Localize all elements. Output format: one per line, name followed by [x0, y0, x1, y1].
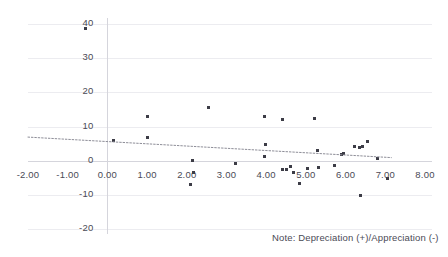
data-point [333, 164, 336, 167]
data-point [84, 27, 87, 30]
data-point [317, 166, 320, 169]
data-point [376, 157, 379, 160]
y-axis-tick-label: 0 [63, 154, 93, 165]
data-point [353, 145, 356, 148]
x-axis-tick-label: 6.00 [324, 169, 368, 180]
x-axis-tick-label: 1.00 [125, 169, 169, 180]
data-point [306, 167, 309, 170]
data-point [192, 171, 195, 174]
data-point [298, 182, 301, 185]
data-point [189, 183, 192, 186]
y-axis-tick-label: 30 [63, 51, 93, 62]
x-axis-tick-label: 8.00 [403, 169, 447, 180]
data-point [112, 139, 115, 142]
x-axis-tick-label: -1.00 [46, 169, 90, 180]
data-point [263, 115, 266, 118]
x-axis-tick-label: 0.00 [85, 169, 129, 180]
data-point [146, 136, 149, 139]
data-point [359, 194, 362, 197]
data-point [292, 171, 295, 174]
data-point [386, 177, 389, 180]
data-point [263, 155, 266, 158]
data-point [281, 168, 284, 171]
data-point [361, 145, 364, 148]
y-axis-tick-label: 40 [63, 17, 93, 28]
data-point [285, 168, 288, 171]
plot-area: 403020100-10-20-2.00-1.000.001.002.003.0… [0, 0, 448, 257]
data-point [234, 162, 237, 165]
x-axis-tick-label: 3.00 [205, 169, 249, 180]
data-point [191, 159, 194, 162]
data-point [289, 165, 292, 168]
scatter-chart-figure: 403020100-10-20-2.00-1.000.001.002.003.0… [0, 0, 448, 257]
x-axis-tick-label: 2.00 [165, 169, 209, 180]
y-axis-tick-label: 20 [63, 85, 93, 96]
chart-note: Note: Depreciation (+)/Appreciation (-) [272, 232, 439, 243]
x-axis-tick-label: -2.00 [6, 169, 50, 180]
data-point [146, 115, 149, 118]
x-axis-tick-label: 5.00 [284, 169, 328, 180]
y-axis-tick-label: -20 [63, 222, 93, 233]
data-point [366, 140, 369, 143]
y-axis-tick-label: -10 [63, 188, 93, 199]
data-point [342, 152, 345, 155]
data-point [264, 143, 267, 146]
data-point [281, 118, 284, 121]
data-point [313, 117, 316, 120]
data-point [316, 149, 319, 152]
data-point [207, 106, 210, 109]
y-axis-tick-label: 10 [63, 120, 93, 131]
y-axis-line [107, 18, 108, 234]
